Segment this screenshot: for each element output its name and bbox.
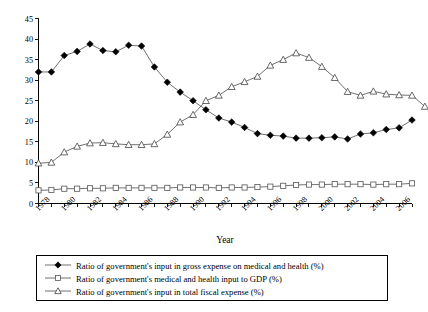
- marker-square: [255, 184, 260, 189]
- marker-square: [49, 187, 54, 192]
- marker-diamond: [319, 134, 326, 141]
- series-triangle: [35, 50, 428, 166]
- marker-diamond: [87, 41, 94, 48]
- y-tick-label: 15: [25, 138, 33, 147]
- marker-square: [87, 186, 92, 191]
- y-tick-label: 25: [25, 97, 33, 106]
- marker-square: [384, 182, 389, 187]
- marker-diamond: [383, 126, 390, 133]
- marker-diamond: [241, 124, 248, 131]
- marker-square: [165, 185, 170, 190]
- marker-triangle: [203, 97, 210, 103]
- y-tick-label: 5: [29, 179, 33, 188]
- marker-diamond: [216, 115, 223, 122]
- y-axis: 051015202530354045: [25, 15, 39, 209]
- x-tick-label: 1992: [214, 195, 232, 213]
- marker-square: [332, 182, 337, 187]
- marker-triangle: [61, 149, 68, 155]
- x-tick-label: 1984: [111, 195, 129, 213]
- marker-diamond: [280, 133, 287, 140]
- marker-diamond: [357, 131, 364, 138]
- x-axis-title: Year: [216, 235, 234, 245]
- marker-square: [358, 182, 363, 187]
- marker-square: [139, 185, 144, 190]
- marker-diamond: [112, 49, 119, 56]
- marker-triangle: [280, 56, 287, 62]
- legend-item-diamond[interactable]: Ratio of government's input in gross exp…: [43, 259, 381, 272]
- marker-triangle: [306, 54, 313, 60]
- marker-diamond: [74, 48, 81, 55]
- x-tick-label: 1988: [162, 195, 180, 213]
- marker-triangle: [267, 62, 274, 68]
- data-series-group: [35, 41, 428, 193]
- series-line: [39, 183, 413, 190]
- legend-label: Ratio of government's medical and health…: [73, 274, 282, 284]
- x-tick-label: 1980: [59, 195, 77, 213]
- marker-diamond: [396, 125, 403, 132]
- marker-square: [62, 186, 67, 191]
- marker-diamond: [138, 43, 145, 50]
- marker-triangle: [228, 83, 235, 89]
- marker-square: [242, 185, 247, 190]
- series-line: [39, 53, 425, 163]
- marker-square: [113, 185, 118, 190]
- series-square: [36, 181, 415, 193]
- marker-diamond: [203, 106, 210, 113]
- y-tick-label: 30: [25, 76, 33, 85]
- marker-diamond: [344, 136, 351, 143]
- chart-legend: Ratio of government's input in gross exp…: [36, 255, 388, 301]
- marker-square: [229, 185, 234, 190]
- y-tick-label: 10: [25, 158, 33, 167]
- marker-square: [203, 185, 208, 190]
- y-tick-label: 20: [25, 117, 33, 126]
- x-tick-label: 1998: [291, 195, 309, 213]
- marker-triangle: [293, 50, 300, 56]
- marker-diamond: [100, 47, 107, 54]
- marker-diamond: [35, 69, 42, 76]
- marker-triangle: [318, 63, 325, 69]
- legend-item-triangle[interactable]: Ratio of government's input in total fis…: [43, 285, 381, 298]
- marker-square: [152, 185, 157, 190]
- marker-triangle: [177, 119, 184, 125]
- marker-square: [100, 186, 105, 191]
- x-tick-label: 2006: [394, 195, 412, 213]
- marker-diamond: [370, 129, 377, 136]
- marker-triangle: [241, 78, 248, 84]
- marker-square: [216, 185, 221, 190]
- triangle-icon: [43, 283, 73, 301]
- marker-square: [190, 185, 195, 190]
- marker-diamond: [409, 117, 416, 124]
- y-tick-label: 40: [25, 35, 33, 44]
- marker-square: [268, 184, 273, 189]
- marker-square: [281, 183, 286, 188]
- marker-triangle: [48, 159, 55, 165]
- marker-square: [409, 181, 414, 186]
- y-tick-label: 35: [25, 56, 33, 65]
- marker-triangle: [151, 140, 158, 146]
- marker-diamond: [190, 97, 197, 104]
- marker-square: [75, 186, 80, 191]
- x-tick-label: 1990: [188, 195, 206, 213]
- marker-diamond: [331, 134, 338, 141]
- marker-diamond: [55, 261, 61, 267]
- marker-diamond: [125, 42, 132, 49]
- x-tick-label: 1986: [137, 195, 155, 213]
- marker-diamond: [228, 119, 235, 126]
- marker-diamond: [254, 130, 261, 137]
- legend-item-square[interactable]: Ratio of government's medical and health…: [43, 272, 381, 285]
- legend-label: Ratio of government's input in total fis…: [73, 287, 264, 297]
- x-tick-label: 2000: [317, 195, 335, 213]
- marker-square: [306, 182, 311, 187]
- x-tick-label: 1982: [85, 195, 103, 213]
- marker-square: [178, 185, 183, 190]
- x-tick-label: 2002: [343, 195, 361, 213]
- marker-square: [371, 182, 376, 187]
- marker-diamond: [293, 135, 300, 142]
- marker-square: [36, 188, 41, 193]
- marker-square: [126, 185, 131, 190]
- x-tick-label: 1978: [34, 195, 52, 213]
- marker-diamond: [177, 89, 184, 96]
- x-tick-label: 1994: [240, 195, 258, 213]
- marker-square: [345, 182, 350, 187]
- marker-square: [319, 182, 324, 187]
